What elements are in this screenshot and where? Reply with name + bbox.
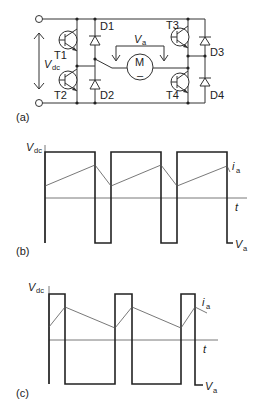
vdc-subscript: dc [52, 63, 60, 72]
t-label: t [203, 343, 207, 355]
ia-subscript: a [236, 166, 241, 175]
armature-voltage-waveform [49, 294, 203, 385]
motor-label: M [135, 56, 144, 68]
armature-voltage-waveform [45, 152, 233, 243]
t3-label: T3 [166, 19, 179, 31]
armature-current-waveform [49, 307, 207, 328]
panel-b-label: (b) [16, 245, 29, 257]
t1-label: T1 [54, 49, 67, 61]
diode-d4-icon [199, 78, 211, 86]
va-waveform-subscript: a [243, 244, 248, 253]
h-bridge-figure: V dc T1 T2 [0, 0, 257, 413]
diode-d2-icon [89, 80, 101, 89]
motor-sign: – [137, 69, 144, 81]
diode-d3-icon [199, 37, 211, 45]
panel-a-label: (a) [16, 111, 29, 123]
h-bridge-circuit: V dc T1 T2 [16, 16, 224, 124]
panel-c-label: (c) [16, 387, 29, 399]
positive-terminal-icon [36, 16, 43, 23]
vdc-double-arrow-icon [34, 33, 44, 89]
ia-label: i [202, 296, 205, 308]
diode-d1-icon [89, 36, 101, 45]
transistor-t2-icon [59, 69, 77, 91]
d3-label: D3 [210, 46, 224, 58]
t2-label: T2 [54, 89, 67, 101]
t4-label: T4 [166, 89, 179, 101]
t-label: t [235, 201, 239, 213]
transistor-t1-icon [59, 29, 77, 51]
ia-label: i [232, 160, 235, 172]
d4-label: D4 [210, 89, 224, 101]
waveform-panel-c: V dc i a t V a (c) [16, 281, 218, 399]
vdc-axis-subscript: dc [34, 146, 42, 155]
armature-current-waveform [45, 165, 230, 186]
vdc-axis-subscript: dc [36, 286, 44, 295]
d1-label: D1 [100, 20, 114, 32]
ia-subscript: a [206, 302, 211, 311]
negative-terminal-icon [36, 100, 43, 107]
d2-label: D2 [100, 89, 114, 101]
waveform-panel-b: V dc i a t V a (b) [16, 141, 248, 257]
va-waveform-subscript: a [213, 386, 218, 395]
